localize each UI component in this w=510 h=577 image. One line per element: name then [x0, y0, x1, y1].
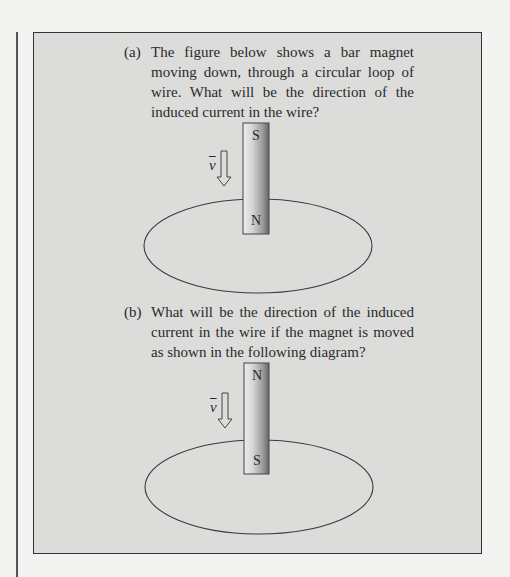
margin-rule: [16, 32, 18, 577]
problem-box: (a) The figure below shows a bar magnet …: [33, 32, 482, 554]
velocity-arrow-b: [218, 393, 232, 428]
figure-b-drawing: [34, 33, 483, 555]
velocity-label-b: v: [210, 399, 217, 416]
magnet-b-top-pole: N: [244, 368, 270, 384]
magnet-b-bottom-pole: S: [244, 453, 270, 469]
